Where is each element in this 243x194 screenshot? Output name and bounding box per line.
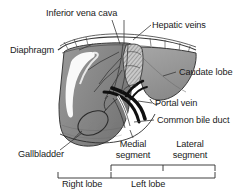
label-hepatic-veins: Hepatic veins [152,20,206,31]
lobe-bracket [58,172,215,178]
label-inferior-vena-cava: Inferior vena cava [46,8,117,19]
leader-medial-segment [130,130,133,138]
label-common-bile-duct: Common bile duct [157,115,229,126]
liver-anatomy-figure: Inferior vena cava Hepatic veins Diaphra… [0,0,243,194]
label-lateral-segment: Lateral segment [163,139,217,160]
label-diaphragm: Diaphragm [10,45,54,56]
label-medial-segment: Medial segment [107,139,159,160]
label-gallbladder: Gallbladder [18,149,64,160]
leader-inferior-vena-cava-2 [112,20,120,44]
leader-portal-vein [138,101,152,103]
label-left-lobe: Left lobe [131,179,165,190]
label-portal-vein: Portal vein [155,98,197,109]
label-caudate-lobe: Caudate lobe [179,67,232,78]
liver-illustration [0,0,243,194]
segment-bracket [111,165,215,171]
label-right-lobe: Right lobe [62,179,102,190]
